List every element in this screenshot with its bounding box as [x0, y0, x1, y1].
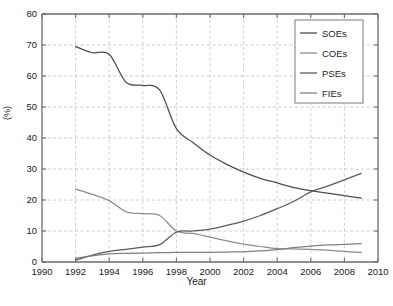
- svg-text:40: 40: [26, 132, 37, 143]
- legend-label-pses: PSEs: [322, 68, 346, 79]
- svg-text:70: 70: [26, 39, 37, 50]
- x-axis-label: Year: [0, 276, 393, 287]
- series-line-fies: [76, 244, 362, 259]
- chart-legend: SOEsCOEsPSEsFIEs: [295, 20, 363, 103]
- line-chart-plot: 0102030405060708019901992199419961998200…: [0, 0, 393, 306]
- legend-label-fies: FIEs: [322, 88, 342, 99]
- svg-text:80: 80: [26, 8, 37, 19]
- svg-text:50: 50: [26, 101, 37, 112]
- svg-text:10: 10: [26, 225, 37, 236]
- svg-text:30: 30: [26, 163, 37, 174]
- chart-figure: 0102030405060708019901992199419961998200…: [0, 0, 393, 306]
- series-line-pses: [76, 173, 362, 260]
- svg-text:60: 60: [26, 70, 37, 81]
- legend-label-soes: SOEs: [322, 28, 347, 39]
- svg-text:20: 20: [26, 194, 37, 205]
- y-axis-label: (%): [2, 106, 12, 120]
- legend-label-coes: COEs: [322, 48, 348, 59]
- series-line-coes: [76, 189, 362, 252]
